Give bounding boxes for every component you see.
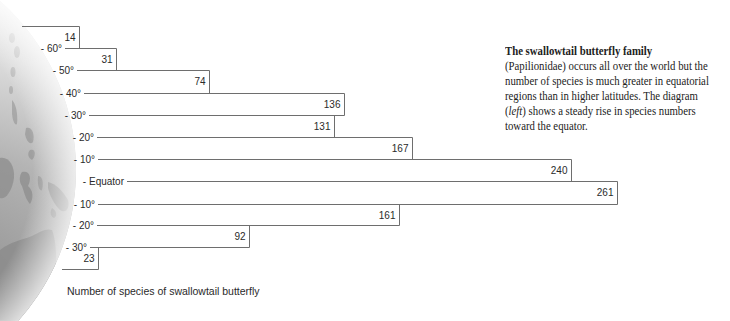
- species-count-label: 161: [379, 210, 396, 221]
- latitude-text: 10°: [80, 154, 95, 165]
- latitude-text: 10°: [80, 199, 95, 210]
- latitude-text: 20°: [79, 132, 94, 143]
- latitude-label: - 30°: [65, 110, 86, 121]
- line-rest: ) shows a steady rise in species numbers: [522, 104, 695, 118]
- latitude-text: 40°: [66, 88, 81, 99]
- description-line: (Papilionidae) occurs all over the world…: [505, 59, 711, 74]
- species-count-label: 92: [234, 231, 246, 242]
- description-line: (left) shows a steady rise in species nu…: [505, 104, 711, 119]
- equator-label: - Equator: [83, 176, 125, 187]
- description-heading: The swallowtail butterfly family: [505, 44, 711, 59]
- species-count-label: 240: [551, 165, 568, 176]
- chart-caption: Number of species of swallowtail butterf…: [67, 285, 260, 297]
- latitude-text: 20°: [79, 220, 94, 231]
- latitude-text: Equator: [89, 176, 125, 187]
- latitude-label: - 30°: [66, 242, 87, 253]
- description-line: number of species is much greater in equ…: [505, 74, 711, 89]
- species-count-label: 261: [597, 187, 614, 198]
- description-line: toward the equator.: [505, 119, 711, 134]
- description-line: regions than in higher latitudes. The di…: [505, 89, 711, 104]
- species-count-label: 23: [83, 253, 95, 264]
- globe-illustration: [0, 0, 76, 321]
- latitude-text: 50°: [59, 65, 74, 76]
- species-count-label: 14: [64, 32, 76, 43]
- species-count-label: 136: [324, 99, 341, 110]
- latitude-label: - 60°: [41, 43, 62, 54]
- species-count-label: 74: [194, 76, 206, 87]
- globe-edge-fade: [0, 0, 76, 321]
- latitude-text: 30°: [71, 110, 86, 121]
- latitude-label: - 50°: [53, 65, 74, 76]
- latitude-label: - 20°: [73, 132, 94, 143]
- latitude-label: - 10°: [74, 154, 95, 165]
- latitude-text: 60°: [47, 43, 62, 54]
- species-count-label: 167: [392, 143, 409, 154]
- description-text: The swallowtail butterfly family (Papili…: [505, 44, 730, 134]
- latitude-text: 30°: [72, 242, 87, 253]
- latitude-label: - 20°: [73, 220, 94, 231]
- latitude-label: - 10°: [74, 199, 95, 210]
- latitude-label: - 40°: [60, 88, 81, 99]
- species-count-label: 131: [314, 121, 331, 132]
- italic-left: left: [509, 104, 523, 118]
- figure: - 60°- 50°- 40°- 30°- 20°- 10°- Equator-…: [0, 0, 730, 321]
- species-count-label: 31: [101, 54, 113, 65]
